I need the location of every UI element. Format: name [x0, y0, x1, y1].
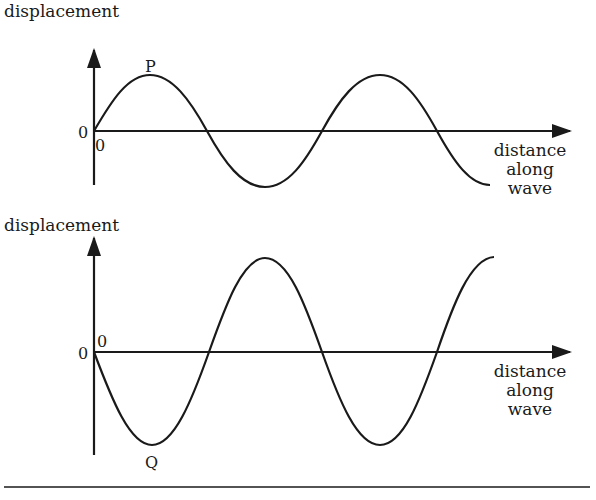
- top-y-axis-label: displacement: [4, 1, 119, 21]
- svg-text:along: along: [506, 159, 554, 179]
- bottom-y-axis-label: displacement: [4, 215, 119, 235]
- top-origin-x-label: 0: [95, 136, 105, 155]
- top-x-axis-label: distance along wave: [494, 140, 567, 198]
- top-origin-y-label: 0: [78, 123, 88, 142]
- svg-text:wave: wave: [508, 399, 552, 419]
- wave-diagram: displacement P 0 0 distance along wave d…: [0, 0, 596, 500]
- svg-text:wave: wave: [508, 178, 552, 198]
- bottom-origin-x-label: 0: [97, 332, 107, 351]
- bottom-graph: displacement Q 0 0 distance along wave: [4, 215, 570, 472]
- bottom-origin-y-label: 0: [78, 344, 88, 363]
- bottom-x-axis-label: distance along wave: [494, 361, 567, 419]
- top-graph: displacement P 0 0 distance along wave: [4, 1, 570, 198]
- svg-text:distance: distance: [494, 361, 567, 381]
- bottom-point-label: Q: [145, 453, 158, 472]
- svg-text:distance: distance: [494, 140, 567, 160]
- top-point-label: P: [145, 57, 156, 76]
- svg-text:along: along: [506, 380, 554, 400]
